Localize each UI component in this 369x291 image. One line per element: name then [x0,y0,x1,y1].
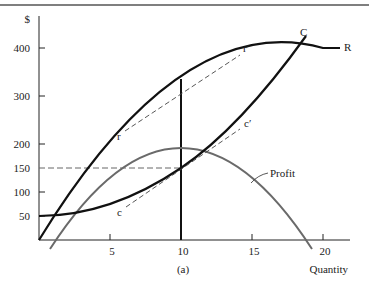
y-tick-400: 400 [14,42,31,54]
revenue-label: R [344,41,352,53]
x-ticks [110,234,323,240]
y-unit-label: $ [25,13,31,25]
y-tick-100: 100 [14,186,31,198]
profit-label: Profit [270,167,295,179]
cost-curve [39,36,306,216]
tangent-c-prime-label: c′ [244,117,251,129]
x-axis-label: Quantity [310,263,349,275]
y-tick-200: 200 [14,138,31,150]
y-tick-300: 300 [14,90,31,102]
y-tick-50: 50 [19,210,31,222]
tangent-r-prime-label: r′ [243,42,249,54]
y-ticks [39,48,45,216]
x-tick-5: 5 [109,245,115,257]
caption-a: (a) [177,263,190,276]
x-tick-15: 15 [249,245,261,257]
profit-max-chart: $ 400 300 200 150 100 50 5 10 15 20 (a) … [0,0,369,291]
x-tick-20: 20 [320,245,332,257]
tangent-r [125,55,240,131]
cost-label: C [300,26,307,38]
tangent-r-label: r [117,130,121,142]
y-tick-150: 150 [14,162,31,174]
x-tick-10: 10 [178,245,190,257]
tangent-c-label: c [117,206,122,218]
